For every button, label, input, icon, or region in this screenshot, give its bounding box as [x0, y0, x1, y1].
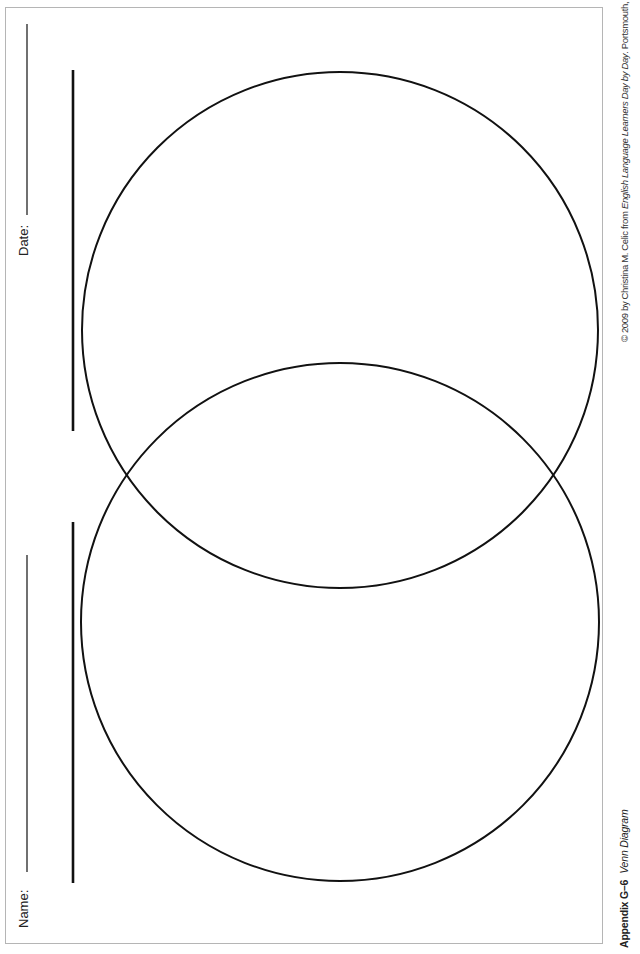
copyright-notice: © 2009 by Christina M. Celic from Englis… — [619, 0, 630, 342]
venn-circle-top[interactable] — [82, 72, 598, 588]
appendix-caption: Appendix G–6Venn Diagram — [618, 809, 630, 948]
copyright-prefix: © 2009 by Christina M. Celic from — [619, 209, 630, 342]
venn-diagram — [0, 0, 640, 954]
copyright-suffix: . Portsmouth, NH: Heinemann. — [619, 0, 630, 54]
appendix-id: Appendix G–6 — [618, 880, 630, 948]
appendix-title: Venn Diagram — [618, 809, 630, 873]
venn-circle-bottom[interactable] — [81, 363, 599, 881]
name-label: Name: — [16, 890, 31, 928]
book-title: English Language Learners Day by Day — [619, 54, 630, 209]
date-label: Date: — [16, 225, 31, 256]
